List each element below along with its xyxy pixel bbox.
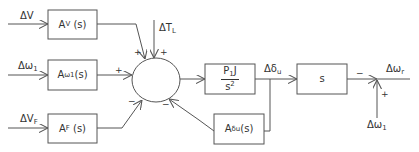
block-av: AV (s) [48, 10, 97, 39]
input-delta-omega1-label: Δω1 [18, 61, 38, 73]
input-delta-tl-label: ΔTL [159, 23, 176, 35]
block-af: AF (s) [48, 114, 97, 143]
input-delta-vf-label: ΔVF [20, 114, 38, 126]
sign-aw1: + [115, 66, 123, 75]
signal-delta-omega-r-label: Δωr [386, 64, 404, 76]
sign-adu: − [162, 100, 170, 109]
input-delta-v-label: ΔV [20, 11, 34, 21]
sign-tl: + [160, 48, 168, 57]
summing-junction [132, 58, 180, 102]
sign-s-output: − [356, 69, 364, 78]
sign-omega1: + [381, 90, 389, 99]
block-s: s [297, 64, 347, 94]
block-adu: Aδu(s) [214, 114, 264, 144]
plant-numerator: P1J [221, 66, 238, 80]
block-aw1: Aω1(s) [48, 60, 97, 90]
signal-delta-delta-u-label: Δδu [264, 64, 281, 76]
input-delta-omega1-bottom-label: Δω1 [367, 120, 387, 132]
block-plant: P1J s2 [205, 64, 255, 94]
sign-av: + [134, 48, 142, 57]
sign-af: − [128, 97, 136, 106]
plant-fraction: P1J s2 [221, 66, 238, 92]
block-diagram: ΔV Δω1 ΔVF ΔTL Δω1 AV (s) Aω1(s) AF (s) … [0, 0, 419, 152]
plant-denominator: s2 [225, 80, 235, 92]
